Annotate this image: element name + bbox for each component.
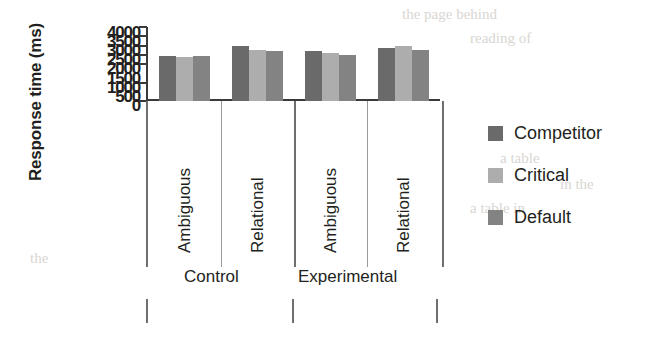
bar-group xyxy=(294,27,367,101)
y-axis-tick-mark xyxy=(139,35,147,37)
legend-swatch-icon xyxy=(488,168,503,183)
chart-legend: CompetitorCriticalDefault xyxy=(488,112,602,238)
y-axis-tick-mark xyxy=(139,26,147,28)
bar-competitor xyxy=(378,48,395,101)
legend-label: Default xyxy=(514,207,571,228)
bar-default xyxy=(412,50,429,101)
group-label-row: ControlExperimental xyxy=(146,267,440,301)
category-divider xyxy=(294,101,296,267)
legend-item: Default xyxy=(488,196,602,238)
y-axis-tick-mark xyxy=(139,45,147,47)
bar-default xyxy=(339,55,356,101)
group-divider-line xyxy=(436,299,438,323)
category-label: Relational xyxy=(394,177,414,253)
y-axis-tick-mark xyxy=(139,63,147,65)
bar-competitor xyxy=(305,51,322,101)
bar-default xyxy=(193,56,210,101)
group-divider-line xyxy=(292,299,294,323)
bars-layer xyxy=(148,27,440,101)
legend-label: Competitor xyxy=(514,123,602,144)
category-divider xyxy=(221,101,222,267)
y-axis-tick-mark xyxy=(139,54,147,56)
legend-item: Critical xyxy=(488,154,602,196)
y-axis-tick-labels: 40003500300025002000150010005000 xyxy=(74,24,140,106)
legend-item: Competitor xyxy=(488,112,602,154)
category-divider xyxy=(367,101,368,267)
legend-swatch-icon xyxy=(488,210,503,225)
category-label: Ambiguous xyxy=(175,168,195,253)
group-divider-line xyxy=(146,299,148,323)
bar-group xyxy=(367,27,440,101)
bar-default xyxy=(266,51,283,101)
bar-group xyxy=(148,27,221,101)
category-label-panel: AmbiguousRelationalAmbiguousRelational xyxy=(146,101,444,267)
bar-critical xyxy=(322,53,339,101)
bar-chart-figure: Response time (ms) 400035003000250020001… xyxy=(0,0,671,341)
condition-group-label: Control xyxy=(184,267,239,287)
bar-competitor xyxy=(232,46,249,101)
bar-critical xyxy=(395,46,412,101)
y-axis-tick-mark xyxy=(139,82,147,84)
group-divider-tail xyxy=(146,299,440,323)
category-label: Ambiguous xyxy=(321,168,341,253)
bar-competitor xyxy=(159,56,176,101)
bar-critical xyxy=(176,57,193,101)
bar-critical xyxy=(249,50,266,101)
legend-label: Critical xyxy=(514,165,569,186)
condition-group-label: Experimental xyxy=(298,267,397,287)
category-label: Relational xyxy=(248,177,268,253)
bar-group xyxy=(221,27,294,101)
y-axis-title: Response time (ms) xyxy=(26,2,46,202)
legend-swatch-icon xyxy=(488,126,503,141)
